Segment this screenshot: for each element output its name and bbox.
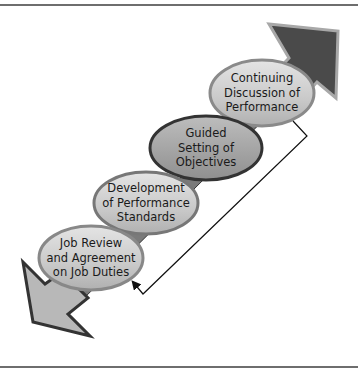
step-1-label: Job Review and Agreement on Job Duties (40, 227, 142, 289)
bottom-rule (0, 366, 358, 368)
step-4-label: Continuing Discussion of Performance (212, 62, 312, 124)
step-3-label: Guided Setting of Objectives (154, 117, 258, 179)
step-2-label: Development of Performance Standards (96, 172, 196, 234)
